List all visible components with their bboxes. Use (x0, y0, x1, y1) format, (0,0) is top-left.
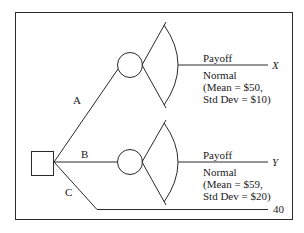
branch-b-label: B (81, 148, 88, 160)
payoff-a-variable: X (271, 59, 280, 71)
dist-b-std: Std Dev = $20) (203, 190, 271, 203)
dist-a-name: Normal (203, 69, 237, 81)
fan-a-lower (142, 65, 166, 108)
fan-a-arc (164, 25, 178, 105)
decision-tree-diagram: A Payoff X Normal (Mean = $50, Std Dev =… (0, 0, 304, 233)
payoff-c-value: 40 (273, 203, 285, 215)
payoff-a-label: Payoff (203, 52, 232, 64)
fan-b-upper (142, 120, 166, 162)
payoff-b-label: Payoff (203, 149, 232, 161)
fan-b-lower (142, 162, 166, 205)
decision-node-square (32, 152, 54, 176)
payoff-b-variable: Y (272, 156, 280, 168)
branch-c-label: C (65, 186, 72, 198)
chance-node-a-circle (118, 53, 143, 78)
chance-node-b-circle (118, 150, 143, 175)
fan-a-upper (142, 22, 166, 65)
dist-b-name: Normal (203, 166, 237, 178)
branch-a: A Payoff X Normal (Mean = $50, Std Dev =… (54, 22, 280, 162)
branch-b: B Payoff Y Normal (Mean = $59, Std Dev =… (54, 120, 280, 205)
fan-b-arc (164, 123, 178, 202)
dist-a-std: Std Dev = $10) (203, 93, 271, 106)
branch-a-label: A (73, 94, 81, 106)
